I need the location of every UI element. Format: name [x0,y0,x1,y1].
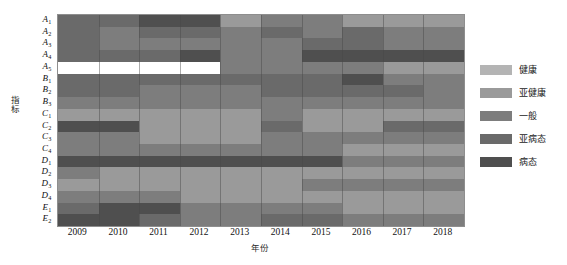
heatmap-cell [302,97,343,109]
heatmap-cell [139,156,180,168]
heatmap-cell [423,132,464,144]
x-axis-title: 年份 [57,241,463,253]
heatmap-cell [139,97,180,109]
heatmap-cell [99,109,140,121]
heatmap-cell [423,214,464,226]
heatmap-cell [220,15,261,27]
heatmap-cell [220,109,261,121]
heatmap-cell [261,214,302,226]
heatmap-cell [342,121,383,133]
y-axis-tick-label: B1 [42,73,51,85]
heatmap-cell [180,167,221,179]
heatmap-cell [383,97,424,109]
heatmap-cell [220,132,261,144]
heatmap-cell [383,167,424,179]
x-axis-tick-label: 2015 [298,227,344,237]
heatmap-cell [99,97,140,109]
heatmap-cell [58,144,99,156]
heatmap-cell [58,167,99,179]
heatmap-cell [261,132,302,144]
legend-color-swatch [480,134,512,144]
heatmap-cell [302,74,343,86]
heatmap-cell [220,179,261,191]
heatmap-cell [383,50,424,62]
heatmap-cell [423,27,464,39]
y-axis-tick-label: D4 [41,190,51,202]
heatmap-cell [58,62,99,74]
heatmap-cell [220,62,261,74]
heatmap-cell [139,85,180,97]
legend-item-label: 一般 [519,109,537,122]
legend-item: 健康 [480,58,565,81]
heatmap-cell [99,85,140,97]
heatmap-cell [58,191,99,203]
heatmap-cell [302,214,343,226]
heatmap-cell [180,109,221,121]
heatmap-cell [99,167,140,179]
y-axis-tick-label: A1 [42,14,51,26]
heatmap-cell [220,27,261,39]
heatmap-cell [220,85,261,97]
heatmap-cell [302,62,343,74]
heatmap-cell [383,74,424,86]
heatmap-cell [180,214,221,226]
legend-item: 一般 [480,104,565,127]
heatmap-cell [342,156,383,168]
heatmap-cell [302,191,343,203]
y-axis-tick-label: A5 [42,61,51,73]
y-axis-tick-labels: A1A2A3A4A5B1B2B3C1C2C3C4D1D2D3D4E1E2 [18,14,54,225]
heatmap-cell [261,167,302,179]
heatmap-cell [220,191,261,203]
legend-item: 亚健康 [480,81,565,104]
heatmap-cell [423,62,464,74]
legend-item-label: 病态 [519,155,537,168]
heatmap-cell [58,214,99,226]
heatmap-cell [423,167,464,179]
x-axis-tick-label: 2016 [339,227,385,237]
heatmap-cell [180,203,221,215]
heatmap-cell [261,15,302,27]
legend-item-label: 健康 [519,63,537,76]
y-axis-tick-label: B2 [42,84,51,96]
heatmap-cell [180,144,221,156]
heatmap-cell [220,50,261,62]
heatmap-cell [261,62,302,74]
heatmap-cell [302,50,343,62]
heatmap-cell [99,38,140,50]
heatmap-cell [180,97,221,109]
heatmap-cell [139,27,180,39]
heatmap-cell [261,144,302,156]
heatmap-cell [342,191,383,203]
heatmap-cell [423,97,464,109]
x-axis-tick-label: 2014 [257,227,303,237]
heatmap-cell [261,121,302,133]
heatmap-cell [220,156,261,168]
heatmap-cell [180,179,221,191]
heatmap-cell [139,109,180,121]
y-axis-title: 指标 [2,96,18,114]
x-axis-tick-label: 2011 [136,227,182,237]
heatmap-cell [423,85,464,97]
heatmap-cell [342,50,383,62]
heatmap-cell [220,167,261,179]
heatmap-cell [261,156,302,168]
heatmap-cell [342,27,383,39]
heatmap-cell [261,191,302,203]
heatmap-cell [139,62,180,74]
legend: 健康亚健康一般亚病态病态 [480,58,565,173]
heatmap-cell [139,203,180,215]
heatmap-cell-grid [58,15,464,226]
heatmap-cell [342,62,383,74]
heatmap-cell [99,62,140,74]
heatmap-cell [58,156,99,168]
heatmap-cell [261,50,302,62]
heatmap-cell [423,109,464,121]
y-axis-tick-label: E1 [42,202,51,214]
heatmap-cell [99,132,140,144]
heatmap-plot-area [57,14,465,227]
heatmap-cell [220,97,261,109]
heatmap-cell [180,121,221,133]
heatmap-cell [58,74,99,86]
heatmap-cell [99,50,140,62]
heatmap-cell [58,109,99,121]
